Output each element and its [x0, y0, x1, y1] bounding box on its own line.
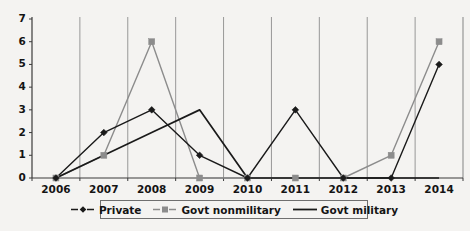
legend-marker-diamond-icon: [70, 204, 96, 215]
x-axis-tick-label: 2010: [224, 183, 272, 195]
x-axis-tick-label: 2012: [319, 183, 367, 195]
x-axis-tick-label: 2011: [271, 183, 319, 195]
y-axis-tick-label: 4: [6, 80, 26, 92]
x-axis-tick-label: 2007: [80, 183, 128, 195]
y-axis-tick-label: 3: [6, 103, 26, 115]
legend-marker-square-icon: [152, 204, 178, 215]
line-chart: 76543210 2006200720082009201020112012201…: [0, 0, 470, 231]
data-point-govt-nonmilitary-2009: [197, 175, 203, 181]
data-point-private-2013: [388, 175, 395, 182]
x-axis-tick-label: 2014: [415, 183, 463, 195]
series-line-private: [56, 64, 439, 178]
legend-label: Private: [99, 204, 142, 216]
y-axis-tick-label: 0: [6, 171, 26, 183]
y-axis-tick-label: 2: [6, 126, 26, 138]
series-line-govt-military: [56, 110, 439, 178]
data-point-govt-nonmilitary-2011: [292, 175, 298, 181]
legend-item-private[interactable]: Private: [70, 204, 142, 216]
series-line-govt-nonmilitary: [56, 42, 439, 178]
y-axis-tick-label: 7: [6, 12, 26, 24]
x-axis-tick-label: 2006: [32, 183, 80, 195]
legend-item-govt-military[interactable]: Govt military: [292, 204, 398, 216]
y-axis-tick-label: 6: [6, 35, 26, 47]
legend-label: Govt military: [321, 204, 398, 216]
chart-legend: PrivateGovt nonmilitaryGovt military: [100, 200, 368, 219]
plot-area: [0, 0, 470, 231]
y-axis-tick-label: 5: [6, 57, 26, 69]
data-point-govt-nonmilitary-2014: [436, 39, 442, 45]
legend-label: Govt nonmilitary: [181, 204, 280, 216]
x-axis-tick-label: 2009: [176, 183, 224, 195]
data-point-govt-nonmilitary-2013: [388, 152, 394, 158]
data-point-govt-nonmilitary-2007: [101, 152, 107, 158]
y-axis-tick-label: 1: [6, 148, 26, 160]
x-axis-tick-label: 2008: [128, 183, 176, 195]
legend-item-govt-nonmilitary[interactable]: Govt nonmilitary: [152, 204, 280, 216]
legend-marker-none-icon: [292, 204, 318, 215]
data-point-govt-nonmilitary-2008: [149, 39, 155, 45]
data-point-private-2014: [436, 61, 443, 68]
x-axis-tick-label: 2013: [367, 183, 415, 195]
